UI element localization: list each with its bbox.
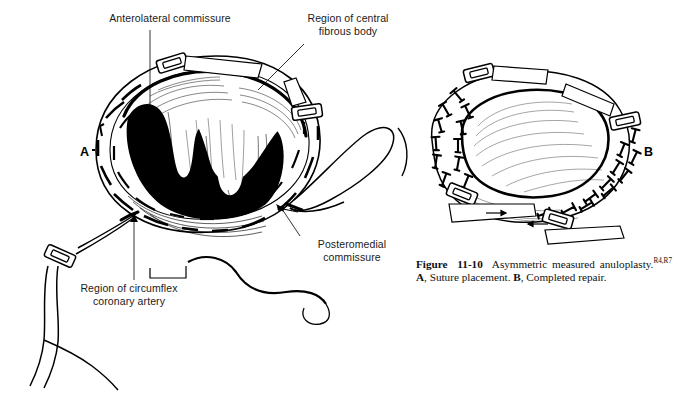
pledget-tab-a1 bbox=[156, 52, 262, 78]
tied-sutures-b bbox=[431, 88, 641, 220]
plication-arrows bbox=[486, 211, 548, 227]
suture-loop-right bbox=[290, 128, 394, 212]
panel-a-artwork bbox=[30, 52, 394, 390]
caption-main-text: Asymmetric measured anuloplasty. bbox=[492, 258, 654, 270]
figure-page: Anterolateral commissure Region of centr… bbox=[0, 0, 700, 399]
caption-part-a-letter: A bbox=[416, 271, 424, 283]
panel-letter-a: A bbox=[80, 145, 89, 159]
label-leader-lines bbox=[130, 30, 304, 280]
caption-part-a-text: , Suture placement. bbox=[424, 271, 510, 283]
label-region-of-circumflex-coronary-artery: Region of circumflex coronary artery bbox=[56, 282, 202, 307]
illustration-canvas bbox=[0, 0, 700, 399]
figure-caption: Figure 11-10Asymmetric measured anulopla… bbox=[416, 258, 672, 285]
leader-central-fibrous-body bbox=[258, 44, 304, 90]
pledget-tab-b3 bbox=[446, 182, 536, 222]
caption-part-b-letter: B bbox=[513, 271, 520, 283]
label-anterolateral-commissure: Anterolateral commissure bbox=[86, 12, 254, 25]
leader-posteromedial-commissure bbox=[280, 206, 300, 236]
suture-tail-bottom bbox=[188, 257, 326, 304]
pledget-tab-a2 bbox=[284, 78, 323, 121]
pledget-tab-b4 bbox=[542, 209, 624, 244]
measured-interval-marks bbox=[98, 85, 318, 231]
caption-references: R4,R7 bbox=[653, 257, 672, 265]
panel-b-artwork bbox=[398, 63, 641, 244]
pledget-tab-b1 bbox=[463, 63, 548, 84]
panel-letter-b: B bbox=[644, 145, 653, 159]
label-region-of-central-fibrous-body: Region of central fibrous body bbox=[290, 12, 406, 37]
pledget-tab-a3 bbox=[44, 244, 77, 268]
label-posteromedial-commissure: Posteromedial commissure bbox=[300, 238, 404, 263]
caption-figure-word: Figure bbox=[416, 258, 448, 270]
caption-part-b-text: , Completed repair. bbox=[521, 271, 607, 283]
caption-figure-number: 11-10 bbox=[457, 258, 482, 270]
pledget-tab-b2 bbox=[562, 84, 641, 130]
